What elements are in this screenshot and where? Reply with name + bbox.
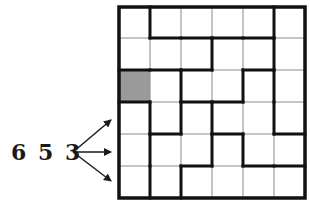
- grid-cell[interactable]: [274, 38, 305, 70]
- grid-cell[interactable]: [150, 70, 181, 102]
- grid-cell[interactable]: [181, 7, 212, 38]
- grid-cell[interactable]: [150, 102, 181, 134]
- grid-cell[interactable]: [243, 166, 274, 198]
- grid-cell[interactable]: [212, 134, 243, 166]
- grid-cell[interactable]: [212, 70, 243, 102]
- grid-cell[interactable]: [212, 102, 243, 134]
- grid-cell[interactable]: [119, 166, 150, 198]
- grid-cell[interactable]: [243, 38, 274, 70]
- grid-cell[interactable]: [150, 38, 181, 70]
- grid-cell[interactable]: [119, 102, 150, 134]
- grid-cell[interactable]: [274, 70, 305, 102]
- grid-cell[interactable]: [243, 70, 274, 102]
- grid-cell[interactable]: [150, 166, 181, 198]
- grid-cell[interactable]: [150, 134, 181, 166]
- grid-cell[interactable]: [274, 134, 305, 166]
- shaded-cell[interactable]: [119, 70, 150, 102]
- grid-cell[interactable]: [274, 7, 305, 38]
- grid-cell[interactable]: [150, 7, 181, 38]
- grid-cell[interactable]: [212, 38, 243, 70]
- grid-cell[interactable]: [181, 38, 212, 70]
- grid-cell[interactable]: [181, 166, 212, 198]
- grid-cell[interactable]: [274, 102, 305, 134]
- grid-cell[interactable]: [181, 134, 212, 166]
- grid-cell[interactable]: [243, 134, 274, 166]
- grid-cell[interactable]: [212, 7, 243, 38]
- grid-cell[interactable]: [274, 166, 305, 198]
- grid-cell[interactable]: [243, 102, 274, 134]
- grid-cell[interactable]: [119, 134, 150, 166]
- grid-cell[interactable]: [243, 7, 274, 38]
- grid-cell[interactable]: [119, 38, 150, 70]
- grid-cell[interactable]: [119, 7, 150, 38]
- puzzle-grid[interactable]: [0, 0, 310, 200]
- grid-cell[interactable]: [181, 102, 212, 134]
- grid-cell[interactable]: [212, 166, 243, 198]
- grid-cell[interactable]: [181, 70, 212, 102]
